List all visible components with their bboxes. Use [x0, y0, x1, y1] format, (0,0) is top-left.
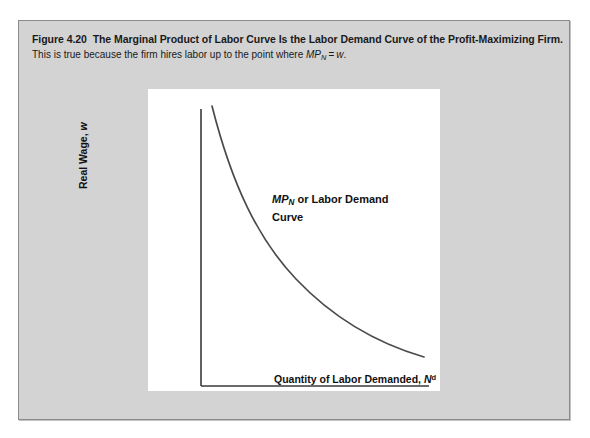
curve-annotation: MPN or Labor Demand Curve [272, 192, 412, 225]
annotation-rest-text: or Labor Demand [294, 193, 388, 205]
caption-equals-sign: = [326, 49, 336, 60]
plot-axes-and-curve [148, 89, 440, 391]
x-axis-label-superscript: d [432, 373, 437, 382]
x-axis-label-text: Quantity of Labor Demanded, [274, 373, 424, 385]
figure-number: Figure 4.20 [32, 33, 87, 45]
caption-title-line: Figure 4.20 The Marginal Product of Labo… [32, 32, 559, 46]
x-axis-label-variable: N [424, 373, 432, 385]
caption-mp-symbol: MP [306, 49, 321, 60]
figure-caption: Figure 4.20 The Marginal Product of Labo… [32, 32, 559, 65]
annotation-second-line: Curve [272, 211, 303, 223]
x-axis-label: Quantity of Labor Demanded, Nd [274, 373, 436, 385]
annotation-mp-symbol: MP [272, 193, 289, 205]
y-axis-label-variable: w [77, 122, 89, 130]
caption-subtitle-line: This is true because the firm hires labo… [32, 48, 559, 65]
y-axis-label-text: Real Wage, [77, 130, 89, 189]
y-axis-label: Real Wage, w [77, 79, 93, 189]
plot-panel: Real Wage, w MPN or Labor Demand Curve Q… [148, 89, 440, 391]
caption-subtitle-prefix: This is true because the firm hires labo… [32, 49, 306, 60]
figure-title: The Marginal Product of Labor Curve Is t… [93, 33, 563, 45]
figure-card: Figure 4.20 The Marginal Product of Labo… [18, 20, 570, 420]
labor-demand-curve [212, 106, 424, 357]
caption-subtitle-suffix: . [343, 49, 346, 60]
